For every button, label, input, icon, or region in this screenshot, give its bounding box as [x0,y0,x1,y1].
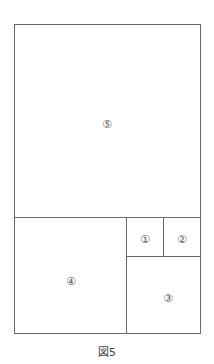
outer-border-bottom [14,333,201,334]
region-4-label: ④ [66,276,76,287]
outer-border-left [14,24,15,334]
figure-caption: 図5 [98,343,116,359]
region-2-label: ② [177,234,187,245]
region-3-label: ③ [163,293,173,304]
region-1-label: ① [140,234,150,245]
divider-vertical-small [163,217,164,257]
divider-horizontal-main [14,217,201,218]
divider-vertical-main [126,217,127,334]
region-5-label: ⑤ [102,119,112,130]
outer-border-top [14,24,201,25]
outer-border-right [200,24,201,334]
